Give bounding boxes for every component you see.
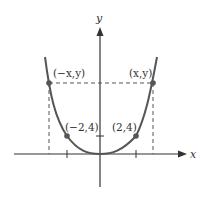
label-2-4: (2,4) [112, 121, 137, 133]
y-axis-label: y [95, 12, 103, 25]
x-axis-label: x [190, 148, 197, 161]
point-neg-2-4 [64, 133, 70, 139]
label-neg-x-y: (−x,y) [53, 67, 85, 79]
point-neg-x-y [46, 80, 52, 86]
point-2-4 [133, 133, 139, 139]
even-function-diagram: (−x,y) (x,y) (−2,4) (2,4) y x [0, 0, 206, 203]
label-neg-2-4: (−2,4) [65, 121, 99, 133]
point-x-y [150, 80, 156, 86]
label-x-y: (x,y) [129, 67, 152, 79]
y-axis-arrow-icon [97, 27, 104, 36]
x-axis-arrow-icon [178, 151, 187, 158]
